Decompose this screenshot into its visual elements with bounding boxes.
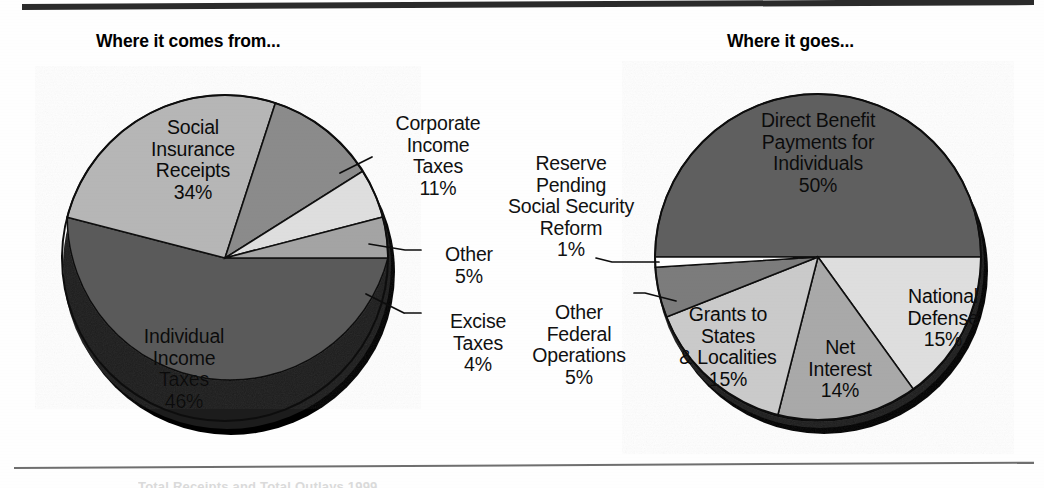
slice-label-grants-to-states-and-localities: Grants to States & Localities 15% [667, 304, 789, 390]
bottom-divider-rule [14, 462, 1034, 469]
slice-label-other-federal-operations: Other Federal Operations 5% [518, 302, 640, 388]
slice-label-individual-income-taxes: Individual Income Taxes 46% [94, 326, 274, 412]
slice-label-corporate-income-taxes: Corporate Income Taxes 11% [373, 113, 503, 199]
slice-label-excise-taxes: Excise Taxes 4% [428, 311, 528, 376]
chart-title-outlays: Where it goes... [727, 31, 854, 52]
slice-label-social-insurance-receipts: Social Insurance Receipts 34% [108, 117, 278, 203]
chart-title-receipts: Where it comes from... [96, 31, 280, 52]
figure-canvas: Where it comes from... Where it goes... … [0, 0, 1044, 488]
top-divider-rule [22, 0, 1034, 10]
slice-label-national-defense: National Defense 15% [888, 286, 998, 351]
slice-label-direct-benefit-payments: Direct Benefit Payments for Individuals … [718, 110, 918, 196]
figure-caption: Total Receipts and Total Outlays 1999 [138, 479, 378, 488]
slice-label-reserve-pending-social-security-reform: Reserve Pending Social Security Reform 1… [495, 153, 647, 261]
slice-label-net-interest: Net Interest 14% [797, 337, 883, 402]
